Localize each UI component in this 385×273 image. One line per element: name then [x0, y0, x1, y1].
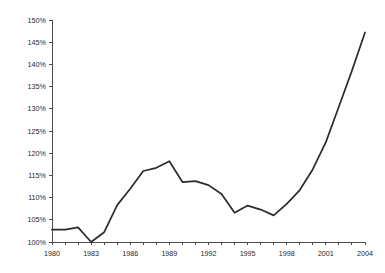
x-tick-label: 2001: [318, 249, 334, 258]
y-tick-label: 110%: [28, 193, 46, 202]
y-tick-label: 105%: [28, 215, 47, 224]
x-tick-label: 1995: [240, 249, 256, 258]
y-axis: 100%105%110%115%120%125%130%135%140%145%…: [28, 16, 52, 247]
x-tick-label: 1980: [44, 249, 60, 258]
x-tick-label: 1986: [122, 249, 138, 258]
y-tick-label: 150%: [28, 16, 47, 25]
data-series-group: [52, 32, 365, 242]
x-tick-label: 2004: [357, 249, 373, 258]
y-tick-label: 130%: [28, 104, 47, 113]
y-tick-label: 135%: [28, 82, 47, 91]
y-tick-label: 120%: [28, 149, 47, 158]
line-chart-plot: 100%105%110%115%120%125%130%135%140%145%…: [0, 0, 385, 273]
y-tick-label: 115%: [28, 171, 46, 180]
chart-figure: theofindexrelativeseriesainand 100%105%1…: [0, 0, 385, 273]
y-tick-label: 125%: [28, 127, 47, 136]
x-tick-label: 1983: [83, 249, 99, 258]
x-axis: 198019831986198919921995199820012004: [44, 242, 373, 258]
x-tick-label: 1989: [161, 249, 177, 258]
x-tick-label: 1998: [279, 249, 295, 258]
y-tick-label: 145%: [28, 38, 47, 47]
y-tick-label: 100%: [28, 238, 47, 247]
data-line-index: [52, 32, 365, 242]
x-tick-label: 1992: [201, 249, 217, 258]
y-tick-label: 140%: [28, 60, 47, 69]
